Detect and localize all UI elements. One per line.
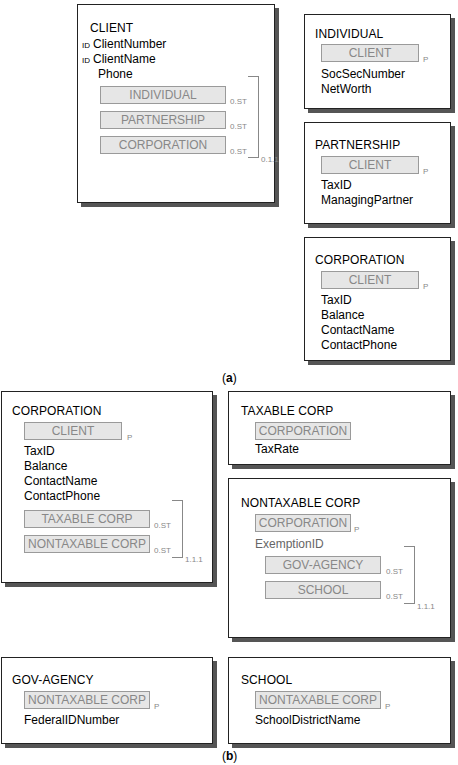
subtype-gov-agency: GOV-AGENCY (265, 556, 381, 574)
corporation-attr-balance: Balance (321, 308, 364, 323)
parent-card: P (154, 702, 159, 711)
subtype-card: 0.ST (154, 546, 171, 555)
caption-b: (b) (222, 749, 237, 763)
parent-client: CLIENT (321, 271, 419, 289)
gov-agency-title: GOV-AGENCY (12, 673, 94, 687)
gov-agency-attr-federalidnumber: FederalIDNumber (24, 713, 119, 728)
corporation-attr-contactname: ContactName (321, 323, 394, 338)
subtype-group-bracket (248, 76, 259, 158)
subtype-taxable-corp: TAXABLE CORP (24, 510, 150, 528)
school-object: SCHOOL NONTAXABLE CORP P SchoolDistrictN… (228, 657, 451, 744)
parent-client: CLIENT (24, 422, 122, 440)
parent-card: P (354, 525, 359, 534)
client-attr-clientname: IDClientName (82, 52, 156, 68)
subtype-group-card: 1.1.1 (417, 602, 435, 611)
caption-a: (a) (222, 371, 237, 385)
parent-client: CLIENT (321, 44, 419, 62)
individual-attr-socsecnumber: SocSecNumber (321, 67, 405, 82)
subtype-card: 0.ST (230, 97, 247, 106)
parent-corporation: CORPORATION (255, 422, 351, 440)
subtype-group-card: 0.1.1 (261, 155, 279, 164)
corporation-attr-contactphone: ContactPhone (24, 489, 100, 504)
taxable-corp-attr-taxrate: TaxRate (255, 442, 299, 457)
subtype-individual: INDIVIDUAL (100, 86, 226, 104)
parent-nontaxable-corp: NONTAXABLE CORP (255, 691, 381, 709)
school-attr-schooldistrictname: SchoolDistrictName (255, 713, 360, 728)
corporation-attr-taxid: TaxID (24, 444, 55, 459)
subtype-card: 0.ST (230, 122, 247, 131)
partnership-object: PARTNERSHIP CLIENT P TaxID ManagingPartn… (304, 122, 451, 224)
client-title: CLIENT (90, 21, 133, 35)
client-attr-clientnumber: IDClientNumber (82, 37, 166, 53)
client-attr-phone: Phone (98, 67, 133, 82)
parent-card: P (423, 167, 428, 176)
client-object: CLIENT IDClientNumber IDClientName Phone… (77, 4, 275, 203)
parent-client: CLIENT (321, 156, 419, 174)
corporation-attr-contactphone: ContactPhone (321, 338, 397, 353)
nontaxable-corp-attr-exemptionid: ExemptionID (255, 537, 324, 552)
identifier-tag: ID (82, 56, 90, 65)
subtype-group-bracket (172, 500, 183, 558)
subtype-card: 0.ST (386, 592, 403, 601)
subtype-partnership: PARTNERSHIP (100, 111, 226, 129)
partnership-attr-managingpartner: ManagingPartner (321, 193, 413, 208)
corporation-title: CORPORATION (12, 404, 102, 418)
corporation-attr-balance: Balance (24, 459, 67, 474)
identifier-tag: ID (82, 41, 90, 50)
corporation-object-a: CORPORATION CLIENT P TaxID Balance Conta… (304, 237, 451, 361)
taxable-corp-object: TAXABLE CORP CORPORATION TaxRate (228, 391, 451, 465)
individual-object: INDIVIDUAL CLIENT P SocSecNumber NetWort… (304, 14, 451, 109)
subtype-group-bracket (404, 546, 415, 604)
partnership-attr-taxid: TaxID (321, 178, 352, 193)
subtype-card: 0.ST (154, 521, 171, 530)
subtype-school: SCHOOL (265, 581, 381, 599)
individual-title: INDIVIDUAL (315, 27, 383, 41)
nontaxable-corp-title: NONTAXABLE CORP (241, 496, 360, 510)
subtype-card: 0.ST (386, 567, 403, 576)
parent-corporation: CORPORATION (255, 514, 351, 532)
school-title: SCHOOL (241, 673, 292, 687)
parent-card: P (423, 55, 428, 64)
corporation-attr-taxid: TaxID (321, 293, 352, 308)
corporation-attr-contactname: ContactName (24, 474, 97, 489)
subtype-corporation: CORPORATION (100, 136, 226, 154)
subtype-group-card: 1.1.1 (185, 555, 203, 564)
parent-card: P (385, 702, 390, 711)
partnership-title: PARTNERSHIP (315, 138, 400, 152)
parent-nontaxable-corp: NONTAXABLE CORP (24, 691, 150, 709)
subtype-card: 0.ST (230, 147, 247, 156)
corporation-object-b: CORPORATION CLIENT P TaxID Balance Conta… (1, 391, 213, 583)
nontaxable-corp-object: NONTAXABLE CORP CORPORATION P ExemptionI… (228, 478, 451, 638)
individual-attr-networth: NetWorth (321, 82, 371, 97)
gov-agency-object: GOV-AGENCY NONTAXABLE CORP P FederalIDNu… (1, 657, 213, 744)
parent-card: P (423, 282, 428, 291)
parent-card: P (127, 433, 132, 442)
subtype-nontaxable-corp: NONTAXABLE CORP (24, 535, 150, 553)
taxable-corp-title: TAXABLE CORP (241, 404, 333, 418)
corporation-title: CORPORATION (315, 253, 405, 267)
